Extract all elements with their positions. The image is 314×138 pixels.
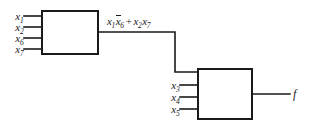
input-label-x3: x3 xyxy=(162,80,180,91)
input-label-x5: x5 xyxy=(162,104,180,115)
input-label-x7: x7 xyxy=(6,44,24,55)
output-label-f: f xyxy=(293,88,296,100)
wire-block1-to-block2 xyxy=(99,32,197,72)
intermediate-expression-label: x1x6+x2x7 xyxy=(107,15,151,27)
logic-block-diagram: x1 x2 x6 x7 x3 x4 x5 x1x6+x2x7 f xyxy=(0,0,314,138)
input-label-x4: x4 xyxy=(162,92,180,103)
logic-block-2 xyxy=(197,68,253,120)
logic-block-1 xyxy=(41,10,99,55)
